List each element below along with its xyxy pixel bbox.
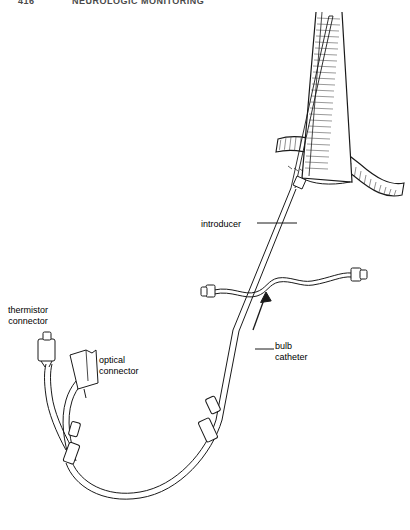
introducer-assembly [201,268,367,297]
label-introducer: introducer [201,219,241,230]
label-bulb-catheter: bulb catheter [275,341,308,363]
label-optical-connector-line2: connector [99,366,139,377]
thermistor-connector-plug [38,332,55,367]
jugular-bulb-catheter-diagram [0,0,410,530]
junction-sleeves [63,396,221,465]
label-thermistor-connector: thermistor connector [8,305,48,327]
label-introducer-line1: introducer [201,219,241,230]
internal-jugular-vein [302,12,352,184]
side-port-left [201,285,215,297]
leader-lines [255,223,297,349]
side-port-right [351,268,367,281]
insertion-direction-arrow [253,292,271,330]
label-bulb-catheter-line1: bulb [275,341,308,352]
label-bulb-catheter-line2: catheter [275,352,308,363]
label-thermistor-connector-line2: connector [8,316,48,327]
label-optical-connector: optical connector [99,355,139,377]
label-optical-connector-line1: optical [99,355,139,366]
vein-group [276,12,404,196]
label-thermistor-connector-line1: thermistor [8,305,48,316]
optical-connector-plug [70,350,98,398]
